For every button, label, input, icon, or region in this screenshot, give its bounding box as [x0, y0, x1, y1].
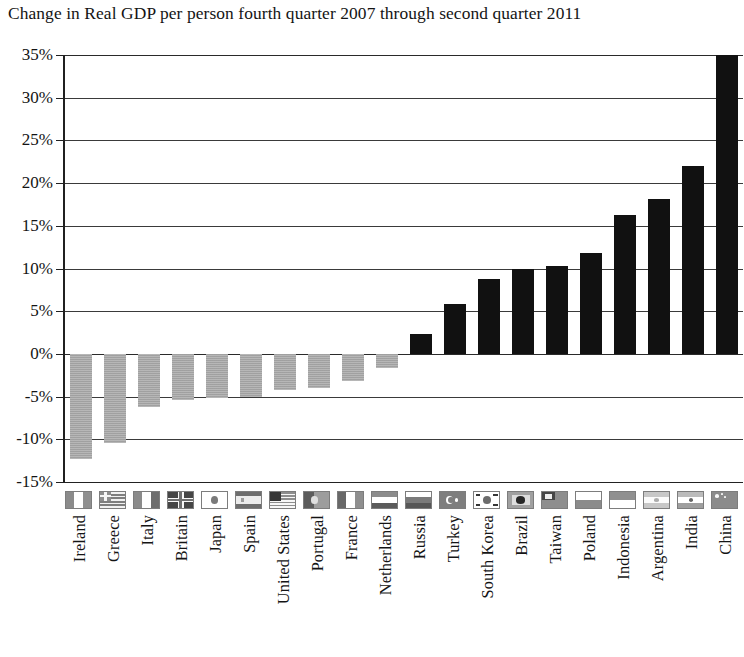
- category-label: Japan: [208, 515, 224, 553]
- bar-spain: [240, 354, 262, 397]
- bar-italy: [138, 354, 160, 407]
- bar-ireland: [70, 354, 92, 459]
- y-axis-label: 30%: [1, 89, 53, 106]
- y-tickmark: [56, 311, 65, 312]
- category-column-netherlands: Netherlands: [369, 482, 402, 657]
- category-column-poland: Poland: [573, 482, 606, 657]
- gridline-neg10: [63, 439, 743, 440]
- category-column-south-korea: South Korea: [471, 482, 504, 657]
- flag-greece-icon: [99, 491, 126, 509]
- category-label: Taiwan: [548, 515, 564, 564]
- flag-indonesia-icon: [609, 491, 636, 509]
- y-axis-label: -15%: [1, 473, 53, 490]
- chart-title: Change in Real GDP per person fourth qua…: [8, 2, 744, 24]
- category-label: Russia: [412, 515, 428, 559]
- category-label: Spain: [242, 515, 258, 553]
- flag-india-icon: [677, 491, 704, 509]
- bar-argentina: [648, 199, 670, 354]
- category-column-taiwan: Taiwan: [539, 482, 572, 657]
- category-label: Netherlands: [378, 515, 394, 595]
- bar-russia: [410, 334, 432, 354]
- flag-netherlands-icon: [371, 491, 398, 509]
- gridline-5: [63, 311, 743, 312]
- gridline-30: [63, 98, 743, 99]
- flag-britain-icon: [167, 491, 194, 509]
- category-label: Ireland: [72, 515, 88, 562]
- category-label: South Korea: [480, 515, 496, 599]
- y-axis-label: 35%: [1, 46, 53, 63]
- y-axis-label: 15%: [1, 217, 53, 234]
- y-axis-label: -10%: [1, 430, 53, 447]
- category-column-india: India: [675, 482, 708, 657]
- bar-france: [342, 354, 364, 381]
- bar-turkey: [444, 304, 466, 354]
- bar-poland: [580, 253, 602, 354]
- gridline-0: [63, 354, 743, 355]
- y-tickmark: [56, 98, 65, 99]
- y-tickmark: [56, 55, 65, 56]
- flag-france-icon: [337, 491, 364, 509]
- flag-japan-icon: [201, 491, 228, 509]
- bar-south-korea: [478, 279, 500, 354]
- category-label: Indonesia: [616, 515, 632, 580]
- category-column-turkey: Turkey: [437, 482, 470, 657]
- gridline-25: [63, 140, 743, 141]
- category-label: Portugal: [310, 515, 326, 571]
- flag-portugal-icon: [303, 491, 330, 509]
- category-label: United States: [276, 515, 292, 604]
- y-tickmark: [56, 354, 65, 355]
- y-tickmark: [56, 226, 65, 227]
- bar-china: [716, 55, 738, 354]
- category-label: France: [344, 515, 360, 560]
- category-label: Italy: [140, 515, 156, 546]
- gridline-10: [63, 269, 743, 270]
- y-tickmark: [56, 269, 65, 270]
- flag-russia-icon: [405, 491, 432, 509]
- category-label: China: [718, 515, 734, 555]
- category-column-indonesia: Indonesia: [607, 482, 640, 657]
- category-column-spain: Spain: [233, 482, 266, 657]
- category-column-japan: Japan: [199, 482, 232, 657]
- flag-brazil-icon: [507, 491, 534, 509]
- y-tickmark: [56, 140, 65, 141]
- plot-area: 35%30%25%20%15%10%5%0%-5%-10%-15%: [63, 55, 743, 482]
- flag-ireland-icon: [65, 491, 92, 509]
- y-axis-label: 25%: [1, 131, 53, 148]
- gridline-20: [63, 183, 743, 184]
- category-column-italy: Italy: [131, 482, 164, 657]
- flag-south-korea-icon: [473, 491, 500, 509]
- flag-poland-icon: [575, 491, 602, 509]
- category-label: Turkey: [446, 515, 462, 562]
- gdp-change-figure: Change in Real GDP per person fourth qua…: [0, 0, 744, 657]
- category-label: Greece: [106, 515, 122, 562]
- y-axis-label: 0%: [1, 345, 53, 362]
- category-label: Britain: [174, 515, 190, 561]
- category-column-russia: Russia: [403, 482, 436, 657]
- flag-taiwan-icon: [541, 491, 568, 509]
- category-column-britain: Britain: [165, 482, 198, 657]
- flag-italy-icon: [133, 491, 160, 509]
- y-tickmark: [56, 439, 65, 440]
- bar-netherlands: [376, 354, 398, 369]
- bar-indonesia: [614, 215, 636, 354]
- bar-portugal: [308, 354, 330, 388]
- flag-argentina-icon: [643, 491, 670, 509]
- gridline-35: [63, 55, 743, 56]
- flag-china-icon: [711, 491, 738, 509]
- category-column-china: China: [709, 482, 742, 657]
- category-column-greece: Greece: [97, 482, 130, 657]
- category-column-france: France: [335, 482, 368, 657]
- category-column-brazil: Brazil: [505, 482, 538, 657]
- bar-taiwan: [546, 266, 568, 354]
- category-label: India: [684, 515, 700, 549]
- bar-india: [682, 166, 704, 354]
- y-axis-label: 10%: [1, 260, 53, 277]
- y-axis-label: 5%: [1, 302, 53, 319]
- bar-united-states: [274, 354, 296, 390]
- category-label: Argentina: [650, 515, 666, 581]
- bar-brazil: [512, 269, 534, 354]
- category-axis: IrelandGreeceItalyBritainJapanSpainUnite…: [63, 482, 743, 657]
- bar-greece: [104, 354, 126, 443]
- category-label: Brazil: [514, 515, 530, 556]
- flag-turkey-icon: [439, 491, 466, 509]
